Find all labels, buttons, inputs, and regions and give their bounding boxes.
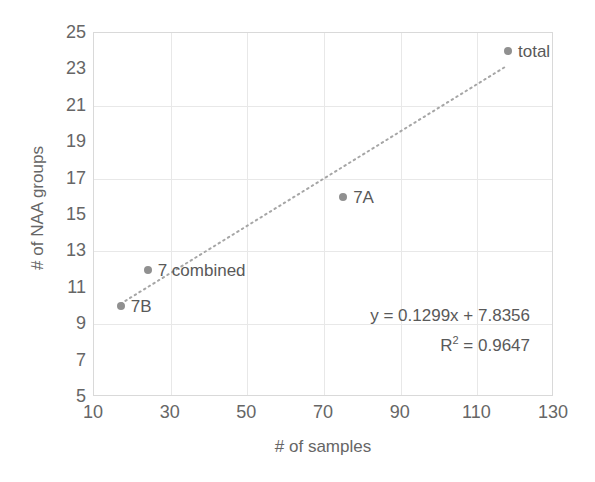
gridline-vertical (324, 33, 325, 395)
y-axis-tick-label: 25 (50, 23, 86, 41)
x-axis-tick-label: 130 (523, 401, 583, 423)
y-axis-tick-label: 23 (50, 59, 86, 77)
data-point[interactable] (339, 193, 347, 201)
x-axis-tick-label: 70 (293, 401, 353, 423)
data-point-label: 7A (353, 189, 374, 206)
gridline-horizontal (94, 251, 552, 252)
y-axis-tick-label: 11 (50, 278, 86, 296)
y-axis-tick-labels: 5791113151719212325 (44, 32, 86, 396)
gridline-horizontal (94, 179, 552, 180)
y-axis-title: # of NAA groups (28, 108, 48, 308)
r-squared-label: R (440, 336, 452, 355)
scatter-chart: 5791113151719212325 # of NAA groups 7B7 … (0, 0, 595, 482)
gridline-vertical (247, 33, 248, 395)
data-point[interactable] (144, 266, 152, 274)
y-axis-tick-label: 19 (50, 132, 86, 150)
gridline-horizontal (94, 106, 552, 107)
regression-annotation: y = 0.1299x + 7.8356 R2 = 0.9647 (330, 303, 530, 358)
x-axis-tick-label: 10 (63, 401, 123, 423)
y-axis-tick-label: 17 (50, 169, 86, 187)
data-point-label: 7 combined (158, 262, 246, 279)
x-axis-tick-label: 90 (370, 401, 430, 423)
y-axis-tick-label: 7 (50, 351, 86, 369)
y-axis-tick-label: 21 (50, 96, 86, 114)
y-axis-tick-label: 15 (50, 205, 86, 223)
x-axis-tick-label: 110 (446, 401, 506, 423)
gridline-vertical (171, 33, 172, 395)
x-axis-tick-label: 50 (216, 401, 276, 423)
data-point[interactable] (117, 302, 125, 310)
x-axis-tick-label: 30 (140, 401, 200, 423)
x-axis-title: # of samples (93, 437, 553, 457)
y-axis-tick-label: 13 (50, 241, 86, 259)
data-point[interactable] (504, 47, 512, 55)
data-point-label: 7B (131, 298, 152, 315)
r-squared-value: R2 = 0.9647 (330, 328, 530, 358)
x-axis-tick-labels: 1030507090110130 (93, 401, 553, 427)
regression-equation: y = 0.1299x + 7.8356 (330, 303, 530, 328)
r-squared-number: = 0.9647 (459, 336, 530, 355)
y-axis-tick-label: 9 (50, 314, 86, 332)
data-point-label: total (518, 43, 550, 60)
